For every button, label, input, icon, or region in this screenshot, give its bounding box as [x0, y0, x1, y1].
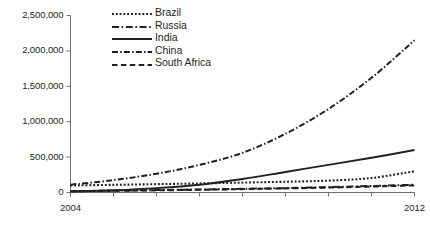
- legend-label: Russia: [155, 19, 187, 32]
- y-axis-tick-label: 2,000,000: [22, 44, 63, 55]
- legend-label: South Africa: [155, 56, 211, 69]
- y-axis-tick-label: 1,000,000: [22, 115, 63, 126]
- y-axis-tick-label: 1,500,000: [22, 80, 63, 91]
- legend-label: China: [155, 44, 182, 57]
- legend-item-china: China: [112, 44, 211, 57]
- legend-line-swatch-icon: [112, 44, 152, 56]
- legend-item-brazil: Brazil: [112, 6, 211, 19]
- y-axis-tick-label: 500,000: [30, 151, 64, 162]
- legend-line-swatch-icon: [112, 6, 152, 18]
- x-axis-tick-label: 2004: [41, 202, 101, 213]
- legend-label: Brazil: [155, 6, 181, 19]
- legend-line-swatch-icon: [112, 31, 152, 43]
- legend-item-india: India: [112, 31, 211, 44]
- legend-line-swatch-icon: [112, 19, 152, 31]
- chart-legend: BrazilRussiaIndiaChinaSouth Africa: [112, 6, 211, 69]
- y-axis-tick-label: 2,500,000: [22, 9, 63, 20]
- legend-item-russia: Russia: [112, 19, 211, 32]
- legend-line-swatch-icon: [112, 57, 152, 69]
- x-axis-tick-label: 2012: [385, 202, 430, 213]
- legend-item-south-africa: South Africa: [112, 56, 211, 69]
- y-axis-tick-label: 0: [58, 186, 63, 197]
- legend-label: India: [155, 31, 178, 44]
